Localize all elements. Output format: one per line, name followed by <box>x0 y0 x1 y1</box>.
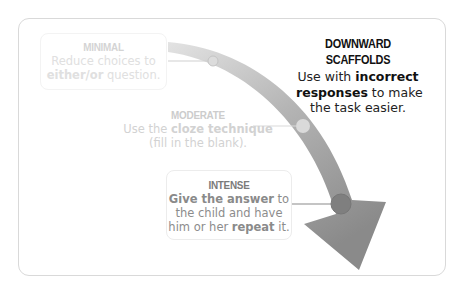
intense-heading: INTENSE <box>176 178 283 192</box>
minimal-line-2: either/or question. <box>41 68 166 82</box>
minimal-line-1: Reduce choices to <box>41 54 166 68</box>
intense-line-1: Give the answer to <box>167 192 291 206</box>
moderate-bold: cloze technique <box>171 122 273 136</box>
intense-line-3: him or her repeat it. <box>167 220 291 234</box>
moderate-line-1: Use the cloze technique <box>118 122 278 136</box>
intense-line-2: the child and have <box>167 206 291 220</box>
title-line-1: Use with incorrect <box>296 69 420 85</box>
intense-scaffold-box: INTENSE Give the answer to the child and… <box>166 170 292 240</box>
intense-line-3-head: him or her <box>168 220 232 234</box>
intense-line-3-tail: it. <box>275 220 290 234</box>
title-bold-1: incorrect <box>355 69 418 84</box>
diagram-title: DOWNWARD SCAFFOLDS <box>306 36 410 67</box>
title-line-1-head: Use with <box>297 69 355 84</box>
moderate-heading: MODERATE <box>129 108 267 122</box>
moderate-marker-icon <box>296 119 310 133</box>
minimal-scaffold-box: MINIMAL Reduce choices to either/or ques… <box>40 33 167 90</box>
moderate-line-1-head: Use the <box>123 122 171 136</box>
intense-bold-1: Give the answer <box>169 192 274 206</box>
title-line-3: the task easier. <box>296 100 420 116</box>
intense-marker-icon <box>331 194 351 214</box>
title-line-2-tail: to make <box>368 85 423 100</box>
minimal-heading: MINIMAL <box>50 40 158 54</box>
downward-scaffolds-title-block: DOWNWARD SCAFFOLDS Use with incorrect re… <box>296 36 420 116</box>
intense-line-1-tail: to <box>274 192 289 206</box>
minimal-bold: either/or <box>47 68 104 82</box>
moderate-line-2: (fill in the blank). <box>118 136 278 150</box>
minimal-marker-icon <box>208 56 218 66</box>
moderate-scaffold-box: MODERATE Use the cloze technique (fill i… <box>118 108 278 150</box>
title-line-2: responses to make <box>296 85 420 101</box>
title-bold-2: responses <box>296 85 368 100</box>
minimal-line-2-tail: question. <box>103 68 160 82</box>
intense-bold-2: repeat <box>232 220 275 234</box>
